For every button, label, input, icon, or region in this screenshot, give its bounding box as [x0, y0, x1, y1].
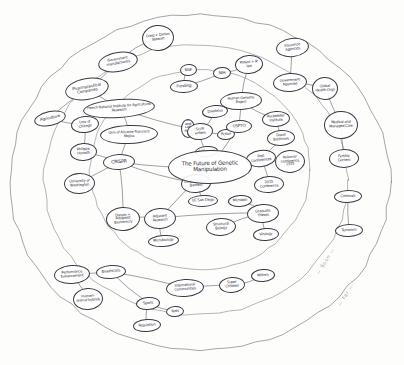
- node-label: David Baltimore: [270, 134, 292, 143]
- node-label: NIH: [216, 71, 228, 76]
- node-label: Performance Enhancement: [57, 269, 87, 278]
- node-label: NSF: [182, 68, 193, 73]
- node-label: Fertility Centers: [332, 154, 356, 162]
- node-label: Structural Biology: [209, 223, 233, 232]
- node-label: Univ of Chicago: [74, 119, 97, 129]
- node-label: Asilomar Conference 1975: [278, 155, 303, 168]
- node-label: Virology: [256, 231, 276, 236]
- node-label: Microbes: [231, 199, 249, 204]
- node-label: Insurance Agencies: [278, 42, 306, 53]
- node-label: The Future of Genetic Manipulation: [171, 161, 249, 174]
- node-label: Daedalus: [205, 108, 225, 113]
- node-label: French National Institute for Agricultur…: [86, 102, 152, 114]
- node-label: Fiction: [220, 132, 232, 136]
- node-label: Tests: [169, 309, 181, 313]
- node-label: Rockefeller Institute: [265, 115, 287, 124]
- node-label: Adjacent Research: [147, 213, 173, 222]
- node-label: Government Agencies: [276, 77, 304, 86]
- node-label: USPTO: [229, 123, 249, 128]
- node-label: 2015 Conference: [257, 180, 281, 189]
- node-label: Past Conferences: [249, 153, 274, 163]
- node-label: Terrorism: [338, 228, 360, 232]
- node-label: University of Washington: [66, 179, 91, 188]
- node-label: Human-animal hybrids: [76, 295, 100, 304]
- node-label: Microbiology: [150, 238, 175, 243]
- node-label: Patent + IP law: [238, 60, 260, 69]
- node-label: Sports: [139, 301, 157, 306]
- node-label: UC San Diego: [191, 199, 215, 203]
- node-label: Criminals: [337, 194, 359, 198]
- node-label: Darwin + Adolphist Biomimicry: [109, 213, 138, 226]
- node-label: Univ of Alicante Francisco Mojica: [103, 129, 155, 138]
- node-label: Sci-Fi writers: [190, 127, 210, 136]
- node-label: Military: [254, 273, 272, 278]
- node-label: Pharmaceutical Companies: [68, 82, 107, 97]
- node-label: Global Health Orgs: [315, 84, 335, 92]
- node-label: Craig + Darlan Stewart: [145, 33, 172, 43]
- node-label: Government manufacturers: [101, 55, 136, 68]
- node-label: Medical and Managed Care: [327, 121, 355, 129]
- node-label: Regulation: [136, 322, 158, 327]
- mindmap-canvas: Craig + Darlan StewartGovernment manufac…: [0, 0, 404, 365]
- node-label: Human Genome Project: [223, 96, 259, 105]
- node-label: Graduate Theses: [250, 208, 276, 217]
- node-label: Funding: [173, 83, 195, 88]
- node-label: CRISPR: [106, 159, 132, 165]
- node-label: Philippe Horvath: [72, 148, 93, 157]
- node-label: International Communities: [169, 283, 201, 293]
- node-label: Agriculture: [37, 113, 63, 122]
- node-label: Bioethicists: [99, 269, 123, 274]
- node-label: Super Children: [222, 281, 242, 290]
